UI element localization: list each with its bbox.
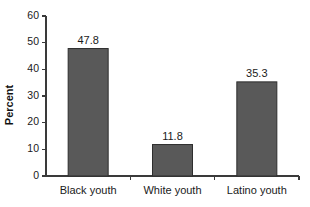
x-axis-category-label: Black youth	[60, 184, 117, 196]
y-axis-tick-label: 10	[27, 142, 39, 154]
y-axis-tick-label: 30	[27, 89, 39, 101]
y-axis-tick-label: 60	[27, 9, 39, 21]
y-axis-tick-label: 50	[27, 35, 39, 47]
bar-value-label: 11.8	[162, 130, 183, 142]
bar	[153, 145, 193, 176]
bar-chart-figure: 0102030405060 47.811.835.3 Black youthWh…	[0, 0, 310, 207]
bar	[237, 82, 277, 176]
y-axis-title: Percent	[3, 84, 15, 125]
y-axis-tick-label: 20	[27, 115, 39, 127]
y-axis-tick-label: 40	[27, 62, 39, 74]
y-axis-tick-label: 0	[33, 169, 39, 181]
x-axis-tick-labels: Black youthWhite youthLatino youth	[60, 184, 287, 196]
bar-value-label: 35.3	[246, 67, 267, 79]
bar	[68, 49, 108, 176]
chart-canvas: 0102030405060 47.811.835.3 Black youthWh…	[0, 0, 310, 207]
bar-value-label: 47.8	[77, 34, 98, 46]
x-axis-category-label: Latino youth	[227, 184, 287, 196]
x-axis-category-label: White youth	[143, 184, 201, 196]
